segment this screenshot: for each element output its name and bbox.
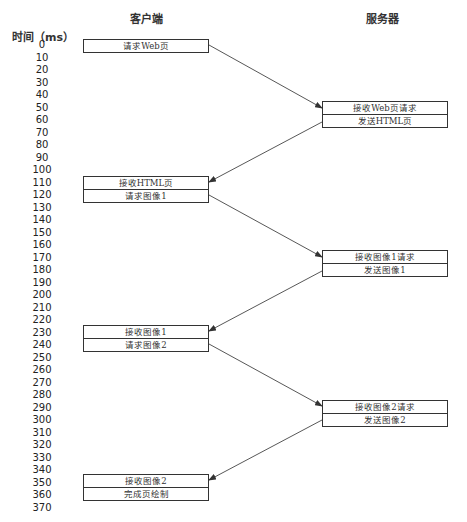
message-arrow [209, 195, 322, 257]
message-arrow [209, 271, 322, 331]
message-arrow [209, 122, 322, 182]
message-arrows [0, 0, 467, 522]
message-arrow [209, 344, 322, 406]
message-arrow [209, 45, 322, 108]
message-arrow [209, 420, 322, 480]
